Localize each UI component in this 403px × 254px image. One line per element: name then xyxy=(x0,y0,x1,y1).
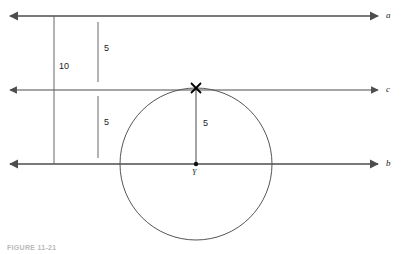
measure-label-10: 10 xyxy=(59,62,69,71)
geometry-figure: a c b 10 5 5 5 Y FIGURE 11-21 xyxy=(0,0,403,254)
center-point-dot xyxy=(194,162,198,166)
line-label-c: c xyxy=(386,85,390,94)
figure-caption: FIGURE 11-21 xyxy=(7,244,57,251)
line-label-b: b xyxy=(386,159,391,168)
line-label-a: a xyxy=(386,11,391,20)
measure-label-5-upper: 5 xyxy=(104,44,109,53)
measure-label-5-lower: 5 xyxy=(104,118,109,127)
center-point-label-y: Y xyxy=(192,169,196,177)
figure-canvas xyxy=(0,0,403,254)
measure-label-5-radius: 5 xyxy=(203,119,208,128)
